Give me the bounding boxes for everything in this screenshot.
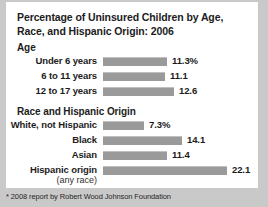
bar-value-label: 14.1	[187, 134, 205, 145]
bar	[103, 87, 174, 96]
bar-fill	[103, 72, 165, 81]
bar-fill	[103, 57, 167, 66]
bar-category-label: White, not Hispanic	[6, 119, 97, 130]
bar	[103, 136, 182, 145]
bar	[103, 151, 167, 160]
bar-value-label: 11.1	[170, 70, 188, 81]
table-row: 6 to 11 years11.1	[6, 70, 258, 85]
bar-fill	[103, 121, 144, 130]
chart-card: Percentage of Uninsured Children by Age,…	[6, 2, 258, 188]
chart-plot-area: Percentage of Uninsured Children by Age,…	[6, 2, 258, 188]
bar-category-label: Black	[6, 134, 97, 145]
table-row: Black14.1	[6, 134, 258, 149]
bar-category-label: Asian	[6, 149, 97, 160]
section-heading-race: Race and Hispanic Origin	[17, 106, 136, 117]
table-row: Under 6 years11.3%	[6, 55, 258, 70]
chart-title: Percentage of Uninsured Children by Age,…	[17, 11, 249, 38]
bar	[103, 121, 144, 130]
bar-value-label: 7.3%	[149, 119, 170, 130]
chart-figure: Percentage of Uninsured Children by Age,…	[0, 0, 268, 207]
table-row: Asian11.4	[6, 149, 258, 164]
bar-fill	[103, 87, 174, 96]
chart-footnote: * 2008 report by Robert Wood Johnson Fou…	[6, 192, 171, 201]
bar-value-label: 11.3%	[172, 55, 198, 66]
bar	[103, 166, 227, 175]
bar	[103, 57, 167, 66]
bar-value-label: 12.6	[179, 85, 197, 96]
bar-category-label: 6 to 11 years	[6, 70, 97, 81]
bar	[103, 72, 165, 81]
bar-value-label: 11.4	[172, 149, 190, 160]
bar-category-label: Hispanic origin	[6, 164, 97, 175]
bar-fill	[103, 166, 227, 175]
bar-category-sublabel: (any race)	[6, 175, 97, 185]
bar-category-label: 12 to 17 years	[6, 85, 97, 96]
section-heading-age: Age	[17, 42, 36, 53]
table-row: White, not Hispanic7.3%	[6, 119, 258, 134]
table-row: 12 to 17 years12.6	[6, 85, 258, 100]
table-row: Hispanic origin(any race)22.1	[6, 164, 258, 179]
bar-value-label: 22.1	[232, 164, 250, 175]
bar-fill	[103, 151, 167, 160]
bar-category-label: Under 6 years	[6, 55, 97, 66]
bar-fill	[103, 136, 182, 145]
